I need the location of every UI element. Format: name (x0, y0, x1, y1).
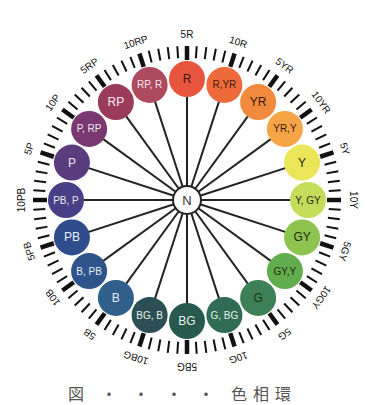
hue-circle: PB (54, 219, 90, 255)
major-tick (230, 333, 234, 346)
minor-tick (44, 143, 55, 147)
hue-label: P, RP (77, 123, 102, 134)
neutral-center: N (173, 186, 201, 214)
minor-tick (57, 276, 67, 282)
hue-label: B (112, 291, 120, 305)
minor-tick (307, 117, 317, 123)
minor-tick (319, 252, 330, 256)
major-tick (62, 282, 73, 290)
major-tick (269, 313, 277, 324)
hue-circle: YR (240, 84, 276, 120)
hue-label: RP, R (137, 79, 162, 90)
minor-tick (239, 332, 243, 343)
hue-scale-label: 10PB (16, 187, 27, 212)
minor-tick (284, 304, 292, 313)
hue-scale-label: 10B (43, 287, 63, 308)
major-tick (269, 75, 277, 86)
hue-scale-label: 10RP (122, 33, 150, 51)
minor-tick (121, 61, 126, 72)
hue-label: R (183, 72, 192, 86)
minor-tick (326, 227, 338, 229)
hue-circle: G, BG (206, 297, 242, 333)
minor-tick (196, 342, 197, 354)
minor-tick (311, 268, 322, 274)
hue-scale-label: 5R (181, 29, 194, 40)
minor-tick (291, 95, 300, 103)
minor-tick (104, 70, 110, 80)
minor-tick (33, 209, 45, 210)
minor-tick (247, 61, 252, 72)
spoke-line (187, 200, 285, 271)
minor-tick (315, 134, 326, 139)
minor-tick (329, 190, 341, 191)
hue-label: B, PB (76, 266, 102, 277)
hue-scale-label: 5PB (21, 240, 37, 262)
hue-circle: Y, GY (290, 182, 326, 218)
spoke-line (150, 200, 187, 315)
minor-tick (38, 235, 50, 238)
minor-tick (214, 49, 216, 61)
hue-scale-label: 10Y (348, 191, 359, 209)
minor-tick (325, 235, 337, 238)
minor-tick (68, 291, 77, 299)
hue-label: Y (298, 156, 306, 170)
hue-circle: G (240, 280, 276, 316)
minor-tick (82, 304, 90, 313)
minor-tick (328, 218, 340, 220)
hue-label: YR,Y (273, 123, 297, 134)
hue-scale-label: 5B (81, 326, 98, 342)
minor-tick (311, 126, 322, 132)
hue-scale-label: 10BG (122, 349, 150, 367)
hue-label: RP (108, 95, 125, 109)
figure-caption: 図 ・ ・ ・ ・ 色相環 (0, 381, 365, 405)
minor-tick (284, 88, 292, 97)
hue-circle: B, PB (71, 253, 107, 289)
minor-tick (222, 51, 225, 63)
hue-label: YR (250, 95, 267, 109)
minor-tick (130, 57, 134, 68)
spoke-line (116, 200, 187, 298)
hue-circle: R (169, 61, 205, 97)
minor-tick (149, 51, 152, 63)
hue-label: P (68, 156, 76, 170)
minor-tick (255, 324, 261, 335)
hue-label: R,YR (212, 79, 236, 90)
hue-circle: GY (284, 219, 320, 255)
spoke-line (187, 163, 302, 200)
hue-label: G (253, 291, 262, 305)
hue-circle: RP, R (132, 67, 168, 103)
spoke-line (187, 200, 224, 315)
minor-tick (177, 342, 178, 354)
minor-tick (75, 95, 84, 103)
major-tick (41, 243, 54, 247)
hue-circle: P, RP (71, 111, 107, 147)
hue-scale-label: 10GY (309, 284, 333, 311)
hue-label: PB (64, 230, 80, 244)
minor-tick (177, 46, 178, 58)
hue-circle: YR,Y (267, 111, 303, 147)
hue-circle: GY,Y (267, 253, 303, 289)
hue-scale-label: 5P (22, 141, 36, 156)
hue-scale-label: 10YR (309, 89, 333, 116)
minor-tick (326, 171, 338, 173)
minor-tick (263, 70, 269, 80)
spoke-line (89, 129, 187, 200)
spoke-line (187, 129, 285, 200)
hue-scale-label: 10R (228, 34, 249, 50)
minor-tick (52, 126, 63, 132)
neutral-label: N (182, 193, 191, 208)
minor-tick (168, 47, 170, 59)
spoke-line (72, 163, 187, 200)
minor-tick (296, 102, 305, 110)
minor-tick (68, 102, 77, 110)
minor-tick (113, 324, 119, 335)
minor-tick (214, 339, 216, 351)
major-tick (300, 109, 311, 117)
major-tick (41, 152, 54, 156)
minor-tick (75, 297, 84, 305)
spoke-line (187, 200, 258, 298)
major-tick (300, 282, 311, 290)
minor-tick (34, 181, 46, 183)
major-tick (96, 313, 104, 324)
